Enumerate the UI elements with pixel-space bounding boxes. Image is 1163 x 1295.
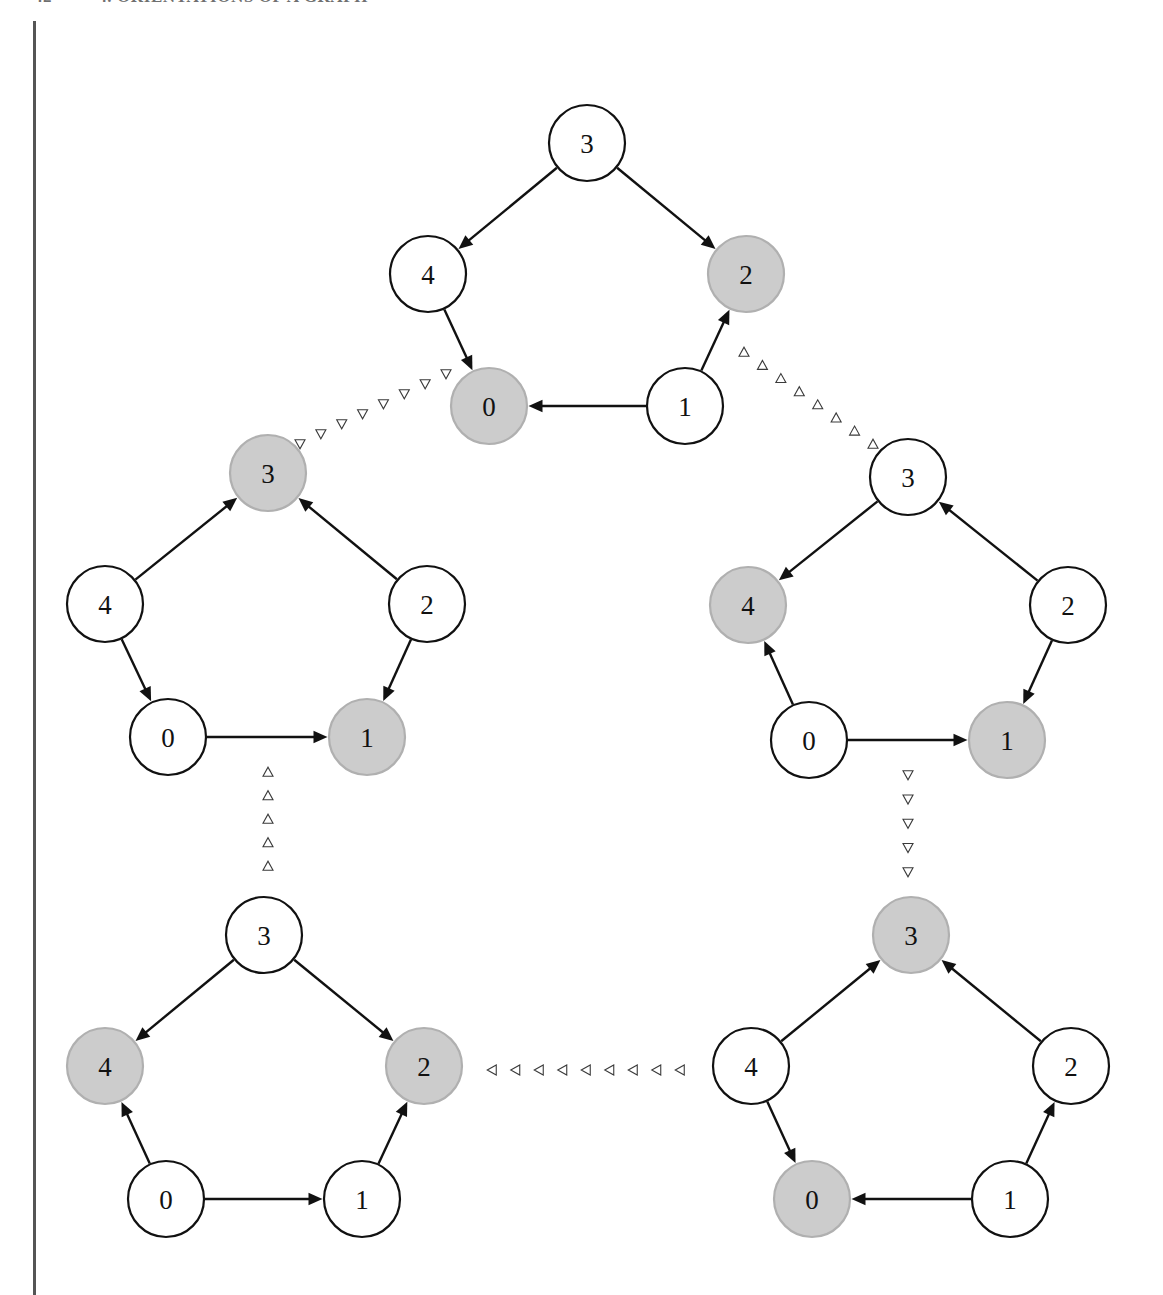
connector-marker (903, 868, 913, 877)
node-left-middle-3: 3 (230, 435, 306, 511)
node-bottom-left-1: 1 (324, 1161, 400, 1237)
node-label: 4 (98, 590, 112, 620)
edge-bottom-left-3-to-2 (294, 960, 393, 1041)
edge-top-1-to-0 (529, 400, 647, 412)
node-bottom-left-4: 4 (67, 1028, 143, 1104)
node-label: 2 (1061, 591, 1075, 621)
edge-line (617, 168, 708, 243)
connector-marker (263, 838, 273, 847)
edge-line (444, 309, 468, 361)
edge-top-3-to-2 (617, 168, 715, 249)
connector-marker (831, 413, 841, 422)
connector-marker (263, 814, 273, 823)
edge-right-middle-2-to-3 (939, 502, 1038, 581)
edge-bottom-right-1-to-0 (852, 1193, 972, 1205)
edge-line (122, 639, 147, 692)
edge-left-middle-4-to-0 (122, 639, 151, 701)
connector-marker (903, 819, 913, 828)
edge-left-middle-4-to-3 (135, 498, 237, 580)
edge-bottom-left-1-to-2 (378, 1102, 407, 1164)
edge-line (1027, 641, 1052, 696)
edge-line (143, 960, 234, 1035)
connector-marker (581, 1065, 590, 1075)
connector-marker (903, 771, 913, 780)
node-left-middle-2: 2 (389, 566, 465, 642)
node-label: 1 (355, 1185, 369, 1215)
edge-bottom-left-0-to-4 (121, 1102, 149, 1164)
node-bottom-right-3: 3 (873, 897, 949, 973)
node-left-middle-4: 4 (67, 566, 143, 642)
connector-marker (776, 374, 786, 383)
node-left-middle-0: 0 (130, 699, 206, 775)
connector-marker (850, 426, 860, 435)
edge-right-middle-0-to-1 (848, 734, 968, 746)
connector-marker (420, 380, 430, 389)
edge-bottom-right-4-to-3 (781, 960, 880, 1041)
edge-bottom-left-0-to-1 (205, 1193, 323, 1205)
connector-marker (675, 1065, 684, 1075)
edge-bottom-right-4-to-0 (767, 1101, 795, 1163)
connector-marker (739, 347, 749, 356)
node-top-0: 0 (451, 368, 527, 444)
edges-layer (121, 168, 1054, 1205)
node-top-1: 1 (647, 368, 723, 444)
edge-bottom-left-3-to-4 (135, 960, 233, 1041)
node-label: 0 (482, 392, 496, 422)
node-bottom-left-3: 3 (226, 897, 302, 973)
edge-right-middle-0-to-4 (764, 641, 793, 704)
edge-left-middle-2-to-3 (298, 498, 396, 579)
edge-line (125, 1111, 149, 1164)
node-label: 1 (1003, 1185, 1017, 1215)
node-label: 4 (98, 1052, 112, 1082)
node-bottom-left-0: 0 (128, 1161, 204, 1237)
connector-marker (511, 1065, 520, 1075)
node-label: 2 (420, 590, 434, 620)
edge-arrowhead (852, 1193, 866, 1205)
node-label: 4 (744, 1052, 758, 1082)
node-label: 0 (805, 1185, 819, 1215)
connector-right-middle-to-bottom-right (903, 771, 913, 877)
connector-marker (605, 1065, 614, 1075)
connector-marker (263, 791, 273, 800)
connector-marker (652, 1065, 661, 1075)
edge-bottom-right-1-to-2 (1026, 1102, 1054, 1164)
node-label: 4 (741, 591, 755, 621)
node-label: 2 (417, 1052, 431, 1082)
node-bottom-right-1: 1 (972, 1161, 1048, 1237)
edge-line (949, 966, 1041, 1041)
node-label: 3 (904, 921, 918, 951)
edge-arrowhead (954, 734, 968, 746)
edge-line (1026, 1111, 1050, 1164)
connector-right-middle-to-top (739, 347, 878, 448)
connector-bottom-left-to-left-middle (263, 767, 273, 870)
connector-marker (558, 1065, 567, 1075)
edge-line (135, 504, 229, 580)
connector-marker (441, 370, 451, 379)
node-label: 0 (161, 723, 175, 753)
node-label: 1 (1000, 726, 1014, 756)
node-bottom-right-0: 0 (774, 1161, 850, 1237)
connector-marker (628, 1065, 637, 1075)
node-right-middle-2: 2 (1030, 567, 1106, 643)
edge-line (781, 966, 873, 1041)
node-right-middle-0: 0 (771, 702, 847, 778)
edge-line (701, 318, 725, 370)
connector-marker (903, 844, 913, 853)
connector-marker (378, 400, 388, 409)
edge-bottom-right-2-to-3 (942, 960, 1041, 1041)
connector-marker (263, 767, 273, 776)
connector-marker (399, 390, 409, 399)
connector-top-to-left-middle (295, 370, 451, 449)
edge-top-3-to-4 (458, 168, 556, 249)
edge-right-middle-3-to-4 (779, 501, 878, 580)
node-label: 2 (1064, 1052, 1078, 1082)
node-label: 2 (739, 260, 753, 290)
node-bottom-left-2: 2 (386, 1028, 462, 1104)
edge-arrowhead (529, 400, 543, 412)
edge-line (786, 501, 877, 574)
edge-left-middle-0-to-1 (207, 731, 328, 743)
node-top-4: 4 (390, 236, 466, 312)
node-label: 4 (421, 260, 435, 290)
node-bottom-right-4: 4 (713, 1028, 789, 1104)
connector-marker (813, 400, 823, 409)
